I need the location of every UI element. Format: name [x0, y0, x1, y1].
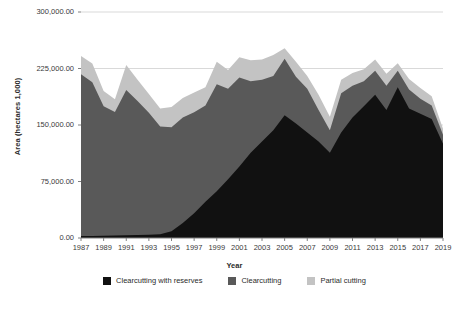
legend-swatch-icon [307, 277, 315, 285]
y-tick-label: 225,000.00 [0, 64, 74, 73]
legend-label: Clearcutting with reserves [116, 276, 202, 285]
legend-label: Partial cutting [320, 276, 365, 285]
y-tick-label: 150,000.00 [0, 120, 74, 129]
legend-item[interactable]: Clearcutting with reserves [103, 276, 202, 285]
legend-item[interactable]: Partial cutting [307, 276, 365, 285]
y-tick-label: 75,000.00 [0, 177, 74, 186]
y-axis-title: Area (hectares 1,000) [13, 62, 22, 172]
stacked-area-chart: 0.0075,000.00150,000.00225,000.00300,000… [0, 0, 469, 309]
legend-swatch-icon [103, 277, 111, 285]
area-series-group [81, 48, 443, 238]
y-tick-label: 300,000.00 [0, 7, 74, 16]
legend-swatch-icon [228, 277, 236, 285]
legend-label: Clearcutting [241, 276, 281, 285]
chart-legend: Clearcutting with reservesClearcuttingPa… [0, 276, 469, 285]
legend-item[interactable]: Clearcutting [228, 276, 281, 285]
y-tick-label: 0.00 [0, 233, 74, 242]
x-axis-title: Year [0, 261, 469, 270]
x-tick-label: 2019 [428, 243, 458, 252]
